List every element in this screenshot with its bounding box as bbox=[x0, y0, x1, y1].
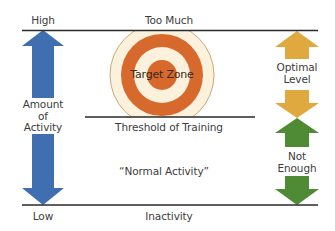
amount-of-activity-label: Amount of Activity bbox=[13, 99, 73, 134]
amount-label-line3: Activity bbox=[13, 122, 73, 134]
blue-up-arrow-icon bbox=[22, 30, 64, 98]
blue-down-arrow-icon bbox=[22, 134, 64, 205]
not-enough-label-line2: Enough bbox=[270, 162, 324, 174]
low-label: Low bbox=[33, 210, 53, 222]
optimal-level-label: Optimal Level bbox=[270, 61, 324, 85]
normal-activity-label: “Normal Activity” bbox=[119, 165, 209, 177]
gold-up-arrow-icon bbox=[275, 31, 319, 59]
amount-label-line1: Amount bbox=[13, 99, 73, 111]
inactivity-label: Inactivity bbox=[145, 210, 192, 222]
too-much-label: Too Much bbox=[145, 14, 193, 26]
target-zone-label: Target Zone bbox=[130, 68, 193, 81]
green-down-arrow-icon bbox=[275, 176, 319, 205]
not-enough-label-line1: Not bbox=[270, 150, 324, 162]
optimal-label-line2: Level bbox=[270, 73, 324, 85]
gold-down-arrow-icon bbox=[275, 90, 319, 118]
not-enough-label: Not Enough bbox=[270, 150, 324, 174]
green-up-arrow-icon bbox=[275, 118, 319, 147]
activity-target-diagram: High Too Much Target Zone Amount of Acti… bbox=[0, 0, 335, 231]
threshold-of-training-label: Threshold of Training bbox=[115, 121, 223, 133]
high-label: High bbox=[31, 14, 55, 26]
optimal-label-line1: Optimal bbox=[270, 61, 324, 73]
